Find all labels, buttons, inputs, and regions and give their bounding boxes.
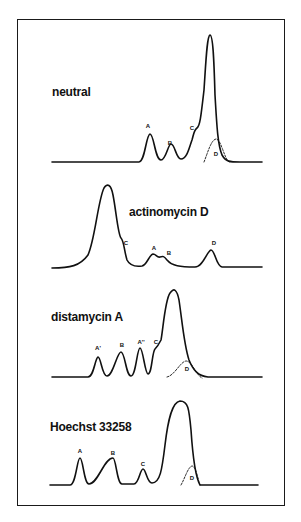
panel-title-neutral: neutral xyxy=(52,85,91,99)
panel-title-actinomycin: actinomycin D xyxy=(129,205,208,219)
peak-label: B xyxy=(168,140,172,146)
peak-label: A' xyxy=(95,345,101,351)
peak-label: C xyxy=(154,339,158,345)
traces xyxy=(0,0,301,522)
peak-label: D xyxy=(214,151,218,157)
peak-label: C xyxy=(190,125,194,131)
peak-label: B xyxy=(120,342,124,348)
peak-label: A xyxy=(146,123,150,129)
panel-title-hoechst: Hoechst 33258 xyxy=(50,420,131,434)
trace-hoechst xyxy=(50,401,258,485)
peak-label: C xyxy=(141,461,145,467)
peak-label: A xyxy=(78,448,82,454)
trace-actinomycin xyxy=(52,185,262,268)
peak-label: D xyxy=(212,240,216,246)
figure: neutral actinomycin D distamycin A Hoech… xyxy=(0,0,301,522)
peak-label: D xyxy=(185,366,189,372)
peak-label: D xyxy=(190,475,194,481)
trace-distamycin xyxy=(52,290,262,377)
peak-label: C xyxy=(124,240,128,246)
peak-label: A'' xyxy=(137,339,144,345)
peak-label: A xyxy=(152,245,156,251)
peak-label: B xyxy=(167,250,171,256)
peak-label: B xyxy=(111,450,115,456)
panel-title-distamycin: distamycin A xyxy=(51,310,123,324)
